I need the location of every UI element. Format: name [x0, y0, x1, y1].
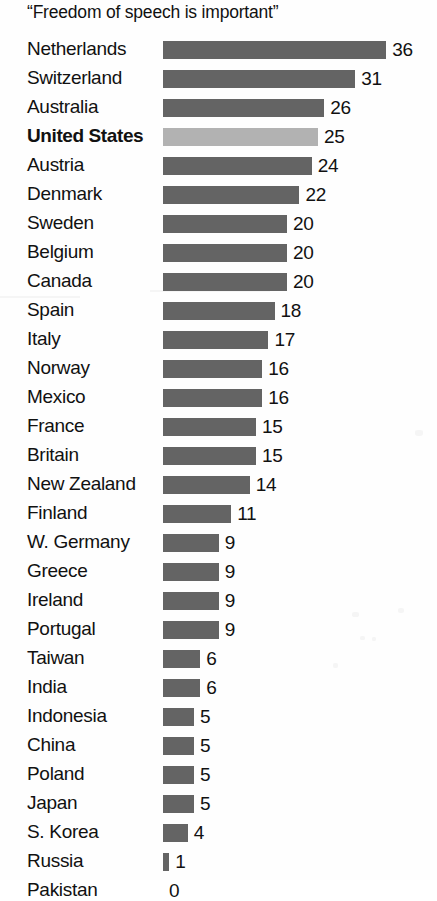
- bar-row: Taiwan6: [0, 645, 437, 674]
- bar-value-label: 5: [200, 708, 210, 726]
- bar-track: [163, 128, 433, 146]
- bar-row-label: Russia: [27, 848, 83, 877]
- bar-fill: [163, 563, 219, 581]
- bar-row-label: Mexico: [27, 384, 85, 413]
- bar-fill: [163, 128, 318, 146]
- bar-row: Sweden20: [0, 210, 437, 239]
- bar-fill: [163, 157, 312, 175]
- bar-fill: [163, 389, 262, 407]
- bar-track: [163, 360, 433, 378]
- bar-row-label: Sweden: [27, 210, 94, 239]
- bar-value-label: 18: [281, 302, 302, 320]
- bar-row: New Zealand14: [0, 471, 437, 500]
- bar-value-label: 16: [268, 389, 289, 407]
- bar-value-label: 31: [361, 70, 382, 88]
- bar-row: India6: [0, 674, 437, 703]
- bar-track: [163, 418, 433, 436]
- bar-row-label: New Zealand: [27, 471, 136, 500]
- bar-value-label: 14: [256, 476, 277, 494]
- bar-track: [163, 679, 433, 697]
- bar-row-label: Italy: [27, 326, 60, 355]
- bar-row: Japan5: [0, 790, 437, 819]
- bar-track: [163, 505, 433, 523]
- bar-value-label: 16: [268, 360, 289, 378]
- bar-track: [163, 157, 433, 175]
- bar-row-label: Canada: [27, 268, 92, 297]
- bar-value-label: 6: [206, 650, 216, 668]
- bar-fill: [163, 302, 275, 320]
- bar-value-label: 9: [225, 592, 235, 610]
- bar-row: Italy17: [0, 326, 437, 355]
- bar-row: Denmark22: [0, 181, 437, 210]
- bar-row: W. Germany9: [0, 529, 437, 558]
- bar-row: United States25: [0, 123, 437, 152]
- bar-row: S. Korea4: [0, 819, 437, 848]
- bar-value-label: 6: [206, 679, 216, 697]
- bar-row-label: Denmark: [27, 181, 102, 210]
- bar-fill: [163, 418, 256, 436]
- bar-row-label: Australia: [27, 94, 98, 123]
- bar-row-label: Pakistan: [27, 877, 97, 901]
- bar-fill: [163, 534, 219, 552]
- bar-fill: [163, 708, 194, 726]
- bar-row-label: China: [27, 732, 75, 761]
- bar-row: Poland5: [0, 761, 437, 790]
- bar-value-label: 4: [194, 824, 204, 842]
- bar-track: [163, 563, 433, 581]
- bar-row: Australia26: [0, 94, 437, 123]
- bar-row: Netherlands36: [0, 36, 437, 65]
- bar-value-label: 15: [262, 418, 283, 436]
- bar-track: [163, 99, 433, 117]
- bar-track: [163, 882, 433, 900]
- bar-value-label: 5: [200, 737, 210, 755]
- bar-fill: [163, 824, 188, 842]
- bar-row: Finland11: [0, 500, 437, 529]
- bar-fill: [163, 186, 299, 204]
- bar-row-label: Greece: [27, 558, 88, 587]
- bar-rows: Netherlands36Switzerland31Australia26Uni…: [0, 36, 437, 901]
- bar-track: [163, 331, 433, 349]
- bar-row-label: Poland: [27, 761, 84, 790]
- bar-row-label: Ireland: [27, 587, 83, 616]
- bar-row: Norway16: [0, 355, 437, 384]
- bar-row: Spain18: [0, 297, 437, 326]
- bar-track: [163, 650, 433, 668]
- bar-value-label: 20: [293, 244, 314, 262]
- bar-row: China5: [0, 732, 437, 761]
- bar-row-label: Portugal: [27, 616, 95, 645]
- bar-fill: [163, 737, 194, 755]
- bar-row-label: Switzerland: [27, 65, 122, 94]
- bar-fill: [163, 331, 268, 349]
- bar-row-label: Japan: [27, 790, 77, 819]
- bar-fill: [163, 679, 200, 697]
- bar-row: Portugal9: [0, 616, 437, 645]
- bar-fill: [163, 99, 324, 117]
- bar-row: Austria24: [0, 152, 437, 181]
- bar-value-label: 0: [169, 882, 179, 900]
- bar-fill: [163, 795, 194, 813]
- chart-title: “Freedom of speech is important”: [27, 2, 278, 23]
- bar-row-label: Norway: [27, 355, 90, 384]
- bar-fill: [163, 215, 287, 233]
- bar-row-label: Belgium: [27, 239, 94, 268]
- bar-fill: [163, 244, 287, 262]
- bar-row-label: Netherlands: [27, 36, 126, 65]
- bar-fill: [163, 505, 231, 523]
- bar-value-label: 25: [324, 128, 345, 146]
- bar-value-label: 26: [330, 99, 351, 117]
- bar-row: Russia1: [0, 848, 437, 877]
- bar-fill: [163, 853, 169, 871]
- bar-row-label: S. Korea: [27, 819, 99, 848]
- bar-value-label: 5: [200, 795, 210, 813]
- bar-fill: [163, 41, 386, 59]
- bar-value-label: 22: [305, 186, 326, 204]
- bar-row: Switzerland31: [0, 65, 437, 94]
- bar-row: Britain15: [0, 442, 437, 471]
- bar-fill: [163, 70, 355, 88]
- bar-row: Mexico16: [0, 384, 437, 413]
- bar-track: [163, 476, 433, 494]
- bar-track: [163, 447, 433, 465]
- bar-row: Ireland9: [0, 587, 437, 616]
- bar-value-label: 24: [318, 157, 339, 175]
